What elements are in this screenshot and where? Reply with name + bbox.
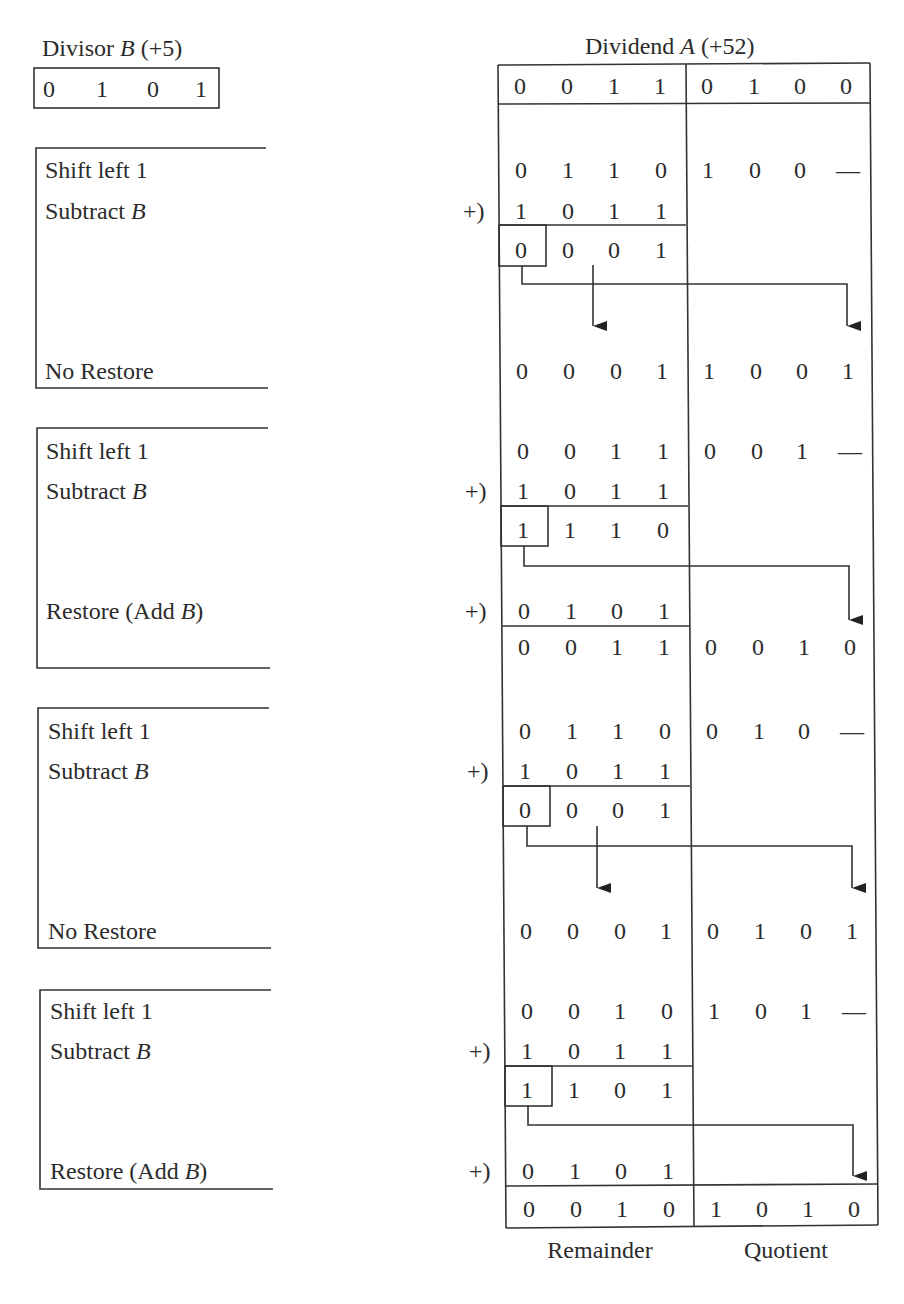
svg-text:0: 0 [663,1196,675,1222]
svg-text:Subtract B: Subtract B [46,478,147,504]
svg-text:Shift left 1: Shift left 1 [50,998,153,1024]
dividend-bits: 0 0 1 1 0 1 0 0 [514,73,852,99]
svg-text:Shift left 1: Shift left 1 [46,438,149,464]
svg-text:1: 1 [611,634,623,660]
svg-text:1: 1 [659,758,671,784]
svg-text:1: 1 [842,358,854,384]
step-label-shift: Shift left 1 [45,157,148,183]
svg-text:0: 0 [798,718,810,744]
svg-text:1: 1 [655,237,667,263]
svg-text:0: 0 [610,358,622,384]
restoring-division-diagram: Divisor B (+5) 0 1 0 1 Dividend A (+52) … [0,0,904,1304]
svg-text:0: 0 [751,438,763,464]
svg-text:0: 0 [519,797,531,823]
svg-text:Restore (Add B): Restore (Add B) [50,1158,207,1184]
svg-text:0: 0 [570,1196,582,1222]
svg-text:1: 1 [657,438,669,464]
svg-text:Shift left 1: Shift left 1 [48,718,151,744]
svg-text:0: 0 [515,157,527,183]
dividend-title: Dividend A (+52) [585,33,755,59]
svg-text:0: 0 [755,998,767,1024]
svg-text:+): +) [469,1038,491,1064]
step-3: Shift left 1 Subtract B No Restore 0 1 1… [38,708,865,948]
svg-text:0: 0 [518,634,530,660]
svg-text:0: 0 [614,1077,626,1103]
svg-text:1: 1 [610,438,622,464]
svg-text:1: 1 [753,718,765,744]
svg-text:0: 0 [615,1158,627,1184]
svg-text:1: 1 [796,438,808,464]
svg-text:1: 1 [754,918,766,944]
svg-text:1: 1 [708,998,720,1024]
svg-text:Subtract B: Subtract B [50,1038,151,1064]
svg-text:1: 1 [658,598,670,624]
svg-text:0: 0 [756,1196,768,1222]
svg-text:0: 0 [516,358,528,384]
svg-text:0: 0 [794,157,806,183]
svg-text:0: 0 [655,157,667,183]
svg-text:1: 1 [656,358,668,384]
svg-text:0: 0 [566,797,578,823]
svg-text:1: 1 [654,73,666,99]
svg-text:No Restore: No Restore [48,918,157,944]
svg-text:1: 1 [802,1196,814,1222]
svg-text:1: 1 [661,1077,673,1103]
svg-text:0: 0 [840,73,852,99]
svg-text:1: 1 [846,918,858,944]
svg-text:1: 1 [612,758,624,784]
svg-text:1: 1 [610,478,622,504]
svg-text:1: 1 [568,1077,580,1103]
step-1: Shift left 1 Subtract B No Restore 0 1 1… [36,148,861,388]
svg-text:0: 0 [800,918,812,944]
svg-text:Subtract B: Subtract B [48,758,149,784]
step-label-subtract: Subtract B [45,198,146,224]
quotient-label: Quotient [744,1237,828,1263]
svg-text:0: 0 [43,76,55,102]
svg-text:0: 0 [515,237,527,263]
quotient-bit-arrow [522,266,847,326]
svg-text:0: 0 [749,157,761,183]
svg-text:1: 1 [661,1038,673,1064]
svg-text:1: 1 [614,1038,626,1064]
svg-text:1: 1 [703,358,715,384]
svg-text:0: 0 [523,1196,535,1222]
svg-text:1: 1 [566,718,578,744]
svg-text:1: 1 [608,198,620,224]
svg-text:1: 1 [521,1038,533,1064]
svg-text:+): +) [467,758,489,784]
svg-text:0: 0 [518,598,530,624]
svg-text:0: 0 [521,998,533,1024]
svg-text:0: 0 [701,73,713,99]
svg-text:0: 0 [147,76,159,102]
svg-text:—: — [835,157,861,183]
svg-text:0: 0 [796,358,808,384]
svg-text:—: — [837,438,863,464]
svg-text:0: 0 [514,73,526,99]
svg-text:0: 0 [661,998,673,1024]
svg-text:0: 0 [567,918,579,944]
svg-text:0: 0 [565,634,577,660]
svg-text:0: 0 [794,73,806,99]
svg-text:0: 0 [568,998,580,1024]
svg-text:0: 0 [844,634,856,660]
svg-text:1: 1 [612,718,624,744]
svg-text:1: 1 [610,517,622,543]
svg-text:0: 0 [706,718,718,744]
svg-text:0: 0 [520,918,532,944]
svg-text:0: 0 [563,358,575,384]
svg-text:1: 1 [608,73,620,99]
svg-text:1: 1 [96,76,108,102]
svg-text:+): +) [465,478,487,504]
svg-text:1: 1 [569,1158,581,1184]
svg-text:0: 0 [704,438,716,464]
svg-text:1: 1 [658,634,670,660]
step-3-label-box [38,708,271,948]
quotient-bit-arrow [527,826,852,888]
svg-text:0: 0 [568,1038,580,1064]
register-frame [498,63,878,1228]
svg-text:0: 0 [707,918,719,944]
svg-text:1: 1 [564,517,576,543]
svg-text:1: 1 [659,797,671,823]
step-4: Shift left 1 Subtract B Restore (Add B) … [40,990,867,1222]
svg-text:1: 1 [616,1196,628,1222]
